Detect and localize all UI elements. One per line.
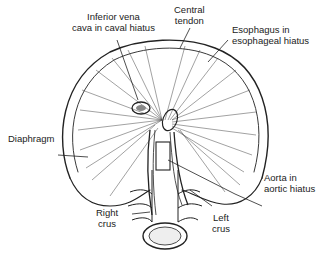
label-aorta: Aorta in aortic hiatus (264, 172, 315, 194)
label-central-tendon: Central tendon (174, 4, 205, 26)
label-esophagus: Esophagus in esophageal hiatus (232, 24, 309, 46)
right-crus (148, 130, 152, 215)
aortic-hiatus (156, 142, 170, 170)
left-crus (174, 132, 188, 205)
dome-lower-left (70, 178, 150, 206)
label-diaphragm: Diaphragm (8, 133, 54, 144)
rib-margin-inner (73, 48, 259, 172)
label-right-crus: Right crus (96, 207, 118, 229)
muscle-fibers (78, 46, 256, 196)
dome-outline (63, 40, 268, 178)
label-left-crus: Left crus (212, 212, 230, 234)
label-ivc: Inferior vena cava in caval hiatus (72, 11, 155, 33)
